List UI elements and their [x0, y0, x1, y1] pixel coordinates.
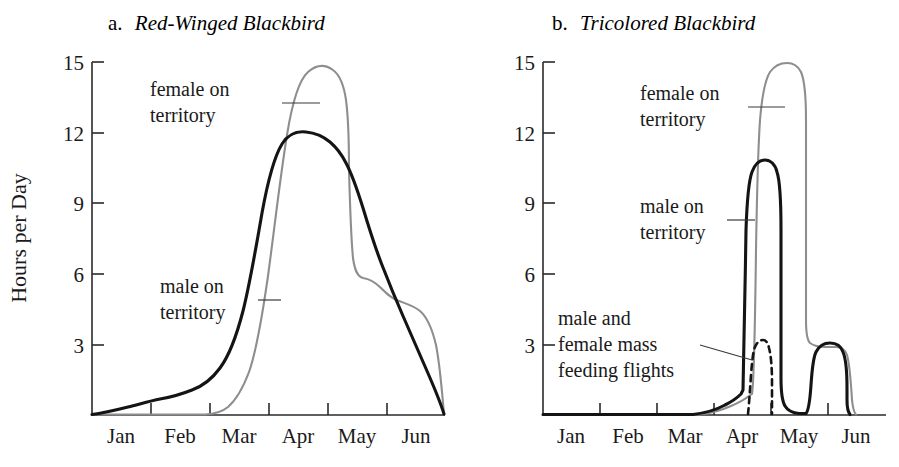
chart-svg: a. Red-Winged Blackbird 15 12 9 6 3 [0, 0, 899, 467]
panel-b-ylabel-9: 9 [525, 192, 536, 216]
panel-a-title: a. Red-Winged Blackbird [108, 11, 325, 35]
panel-b-month-mar: Mar [668, 424, 703, 448]
panel-a-annot-male-line2: territory [160, 301, 226, 324]
panel-b-annot-female-line2: territory [640, 108, 706, 131]
panel-b-month-may: May [780, 424, 819, 448]
panel-b-ylabel-12: 12 [514, 122, 535, 146]
panel-a-month-may: May [338, 424, 377, 448]
panel-b-annot-male-line2: territory [640, 221, 706, 244]
panel-b-ylabel-3: 3 [525, 334, 536, 358]
panel-red-winged-blackbird: a. Red-Winged Blackbird 15 12 9 6 3 [63, 11, 445, 448]
panel-b-curve-mass-feeding-flights [748, 340, 772, 414]
panel-a-title-text: Red-Winged Blackbird [134, 11, 325, 35]
panel-a-month-jun: Jun [401, 424, 431, 448]
panel-b-month-jun: Jun [841, 424, 871, 448]
panel-a-ylabel-9: 9 [74, 192, 85, 216]
panel-a-ylabel-3: 3 [74, 334, 85, 358]
panel-a-ylabel-6: 6 [74, 263, 85, 287]
panel-a-month-feb: Feb [164, 424, 196, 448]
panel-b-annot-female-line1: female on [640, 82, 719, 104]
y-axis-title: Hours per Day [6, 173, 31, 303]
panel-b-annot-flights-line2: female mass [558, 333, 658, 355]
panel-a-annot-female-line1: female on [150, 78, 229, 100]
panel-b-title: b. Tricolored Blackbird [552, 11, 756, 35]
panel-tricolored-blackbird: b. Tricolored Blackbird 15 12 9 6 3 [514, 11, 886, 448]
panel-a-ylabel-15: 15 [63, 51, 84, 75]
panel-a-month-mar: Mar [222, 424, 257, 448]
panel-a-annot-female-line2: territory [150, 104, 216, 127]
panel-b-enumerator: b. [552, 11, 568, 35]
panel-b-annot-flights-line1: male and [558, 307, 631, 329]
panel-b-month-apr: Apr [726, 424, 759, 448]
panel-b-annot-male-line1: male on [640, 195, 704, 217]
panel-b-ylabel-6: 6 [525, 263, 536, 287]
panel-a-enumerator: a. [108, 11, 123, 35]
panel-a-ylabel-12: 12 [63, 122, 84, 146]
panel-a-curve-female-on-territory [92, 66, 444, 414]
panel-a-month-jan: Jan [107, 424, 135, 448]
figure-container: a. Red-Winged Blackbird 15 12 9 6 3 [0, 0, 899, 467]
panel-a-annot-male-line1: male on [160, 275, 224, 297]
panel-a-month-apr: Apr [282, 424, 315, 448]
panel-b-month-jan: Jan [557, 424, 585, 448]
panel-b-month-feb: Feb [612, 424, 644, 448]
panel-b-ylabel-15: 15 [514, 51, 535, 75]
panel-b-annot-flights-line3: feeding flights [558, 359, 674, 382]
panel-b-title-text: Tricolored Blackbird [580, 11, 756, 35]
